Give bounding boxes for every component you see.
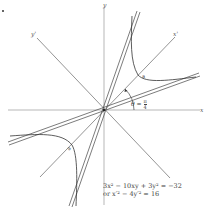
x-axis-label: x xyxy=(200,106,204,113)
y-prime-axis-label: y' xyxy=(30,30,36,38)
angle-denominator: 4 xyxy=(144,105,147,110)
figure-marker xyxy=(2,10,4,12)
x-prime-axis-label: x' xyxy=(173,30,178,37)
vertex-mark-upper: a xyxy=(142,73,145,79)
equation-line-1: 3x² − 10xy + 3y² = −32 xyxy=(103,182,182,190)
equation-line-2: or x′² − 4y′² = 16 xyxy=(103,190,182,198)
asymptote-shallow xyxy=(8,73,199,142)
origin-point xyxy=(103,109,105,111)
y-axis-label: y xyxy=(102,1,107,9)
equation-caption: 3x² − 10xy + 3y² = −32 or x′² − 4y′² = 1… xyxy=(103,182,182,198)
asymptote-steep-2 xyxy=(72,12,140,207)
asymptote-steep xyxy=(69,11,137,206)
vertex-mark-lower: a xyxy=(65,145,71,151)
theta-symbol: θ xyxy=(131,100,135,107)
angle-label: θ = π 4 xyxy=(131,99,147,110)
angle-fraction: π 4 xyxy=(144,99,147,110)
angle-equals: = xyxy=(137,100,142,107)
x-prime-axis xyxy=(40,37,175,177)
